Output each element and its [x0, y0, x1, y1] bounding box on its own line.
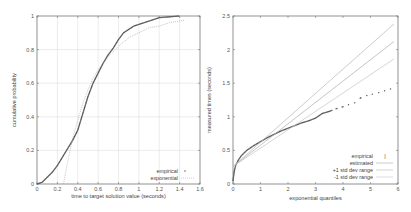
x-tick-label: 6	[396, 186, 399, 192]
x-tick-label: 0.6	[94, 186, 102, 192]
right-chart-frame	[233, 16, 398, 184]
legend-label-exponential: exponential	[150, 175, 178, 181]
series--1-std-dev-range	[233, 24, 394, 166]
y-tick-label: 1.5	[222, 80, 230, 86]
charts-canvas: 00.20.40.60.811.21.41.6 00.20.40.60.81 t…	[0, 0, 411, 212]
series-empirical	[36, 15, 179, 184]
x-tick-label: 1	[259, 186, 262, 192]
legend-label-minus-1-std: -1 std dev range	[334, 174, 373, 180]
legend-marker-empirical: |	[384, 153, 385, 159]
series-exponential	[63, 20, 184, 184]
y-tick-label: 0.6	[26, 80, 34, 86]
x-tick-label: 1.2	[155, 186, 163, 192]
y-tick-label: 0.8	[26, 47, 34, 53]
right-chart-x-axis-label: exponential quantiles	[289, 195, 342, 201]
series--1-std-dev-range	[233, 59, 394, 167]
x-tick-label: 1.4	[176, 186, 184, 192]
legend-label-plus-1-std: +1 std dev range	[333, 167, 373, 173]
x-tick-label: 1.6	[196, 186, 204, 192]
left-chart-legend: empirical exponential	[150, 168, 195, 181]
x-tick-label: 0.2	[54, 186, 62, 192]
right-chart-x-ticks: 0123456	[231, 16, 399, 192]
y-tick-label: 0.2	[26, 147, 34, 153]
left-chart-series	[36, 15, 184, 184]
x-tick-label: 2	[286, 186, 289, 192]
left-chart-y-ticks: 00.20.40.60.81	[26, 13, 200, 187]
y-tick-label: 1	[227, 114, 230, 120]
series-estimated	[233, 42, 394, 167]
legend-marker-empirical	[184, 170, 186, 172]
left-chart-x-axis-label: time to target solution value (seconds)	[71, 193, 166, 199]
left-chart-ttt-plot: 00.20.40.60.811.21.41.6 00.20.40.60.81 t…	[11, 13, 204, 199]
legend-label-empirical: empirical	[156, 168, 178, 174]
right-chart-qq-plot: 0123456 00.511.522.5 exponential quantil…	[206, 13, 400, 201]
y-tick-label: 0.4	[26, 114, 34, 120]
x-tick-label: 4	[341, 186, 344, 192]
x-tick-label: 0	[231, 186, 234, 192]
legend-label-estimated: estimated	[350, 160, 373, 166]
x-tick-label: 1	[137, 186, 140, 192]
legend-label-empirical: empirical	[351, 153, 373, 159]
right-chart-y-axis-label: measured times (seconds)	[206, 67, 212, 133]
right-chart-legend: empirical | estimated +1 std dev range -…	[333, 153, 393, 180]
x-tick-label: 0.4	[74, 186, 82, 192]
x-tick-label: 3	[314, 186, 317, 192]
y-tick-label: 2	[227, 47, 230, 53]
y-tick-label: 2.5	[222, 13, 230, 19]
y-tick-label: 0.5	[222, 147, 230, 153]
y-tick-label: 1	[31, 13, 34, 19]
x-tick-label: 5	[369, 186, 372, 192]
x-tick-label: 0	[35, 186, 38, 192]
left-chart-x-ticks: 00.20.40.60.811.21.41.6	[35, 16, 203, 192]
y-tick-label: 0	[31, 181, 34, 187]
left-chart-y-axis-label: cumulative probability	[11, 73, 17, 127]
y-tick-label: 0	[227, 181, 230, 187]
x-tick-label: 0.8	[115, 186, 123, 192]
